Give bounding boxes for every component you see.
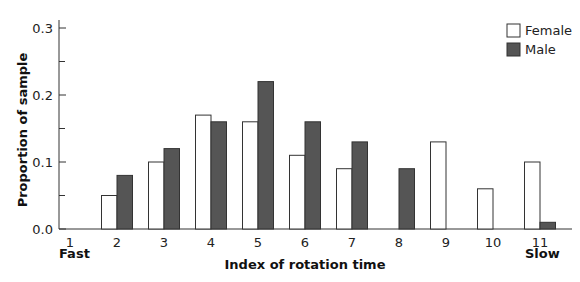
x-tick-label: 8: [395, 235, 403, 250]
bar-female-6: [290, 155, 306, 229]
x-tick-label: 4: [207, 235, 215, 250]
bars: [102, 82, 556, 229]
x-tick-label: 5: [254, 235, 262, 250]
x-tick-label: 9: [442, 235, 450, 250]
legend-swatch-female: [507, 24, 520, 37]
y-axis-title: Proportion of sample: [15, 52, 30, 207]
bar-female-10: [478, 189, 494, 229]
x-axis-title: Index of rotation time: [225, 257, 386, 272]
slow-label: Slow: [525, 246, 560, 261]
bar-female-11: [525, 162, 541, 229]
bar-female-4: [196, 115, 212, 229]
fast-label: Fast: [59, 246, 90, 261]
bar-female-2: [102, 196, 118, 230]
bar-male-3: [164, 149, 180, 229]
bar-female-3: [149, 162, 165, 229]
bar-male-5: [258, 82, 274, 229]
bar-male-6: [305, 122, 321, 229]
x-tick-label: 6: [301, 235, 309, 250]
bar-female-7: [337, 169, 353, 229]
legend-swatch-male: [507, 43, 520, 56]
bar-chart: 0.00.10.20.3 1234567891011 Proportion of…: [0, 0, 580, 282]
y-tick-label: 0.2: [32, 88, 53, 103]
legend-label-female: Female: [525, 23, 572, 38]
y-tick-label: 0.1: [32, 155, 53, 170]
bar-male-11: [540, 222, 556, 229]
x-tick-label: 10: [485, 235, 502, 250]
bar-male-7: [352, 142, 368, 229]
x-tick-label: 3: [160, 235, 168, 250]
legend-label-male: Male: [525, 42, 556, 57]
x-tick-label: 7: [348, 235, 356, 250]
bar-male-4: [211, 122, 227, 229]
x-axis: 1234567891011: [59, 229, 572, 250]
bar-male-2: [117, 175, 133, 229]
legend: Female Male: [507, 23, 572, 57]
bar-female-9: [431, 142, 447, 229]
bar-male-8: [399, 169, 415, 229]
bar-female-5: [243, 122, 259, 229]
y-tick-label: 0.3: [32, 21, 53, 36]
y-axis: 0.00.10.20.3: [32, 20, 66, 237]
y-tick-label: 0.0: [32, 222, 53, 237]
x-tick-label: 2: [113, 235, 121, 250]
